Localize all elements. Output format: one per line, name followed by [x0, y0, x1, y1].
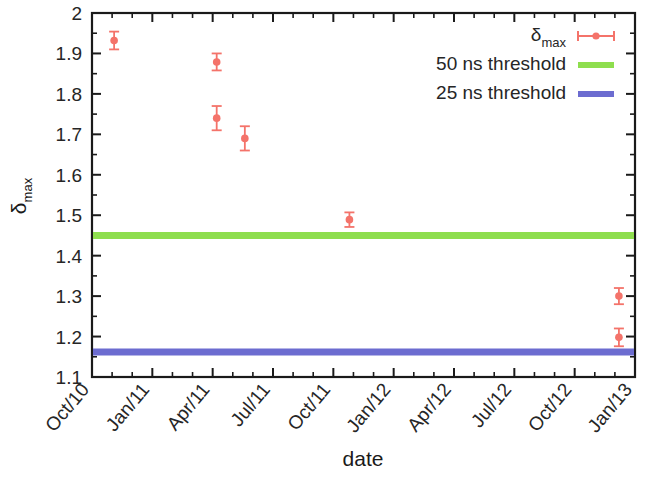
data-point [212, 106, 222, 130]
x-tick-label: Apr/11 [163, 379, 214, 434]
chart-figure: 21.91.81.71.61.51.41.31.21.1 Oct/10Jan/1… [0, 0, 663, 478]
y-tick-label: 1.4 [56, 246, 83, 267]
x-tick-label: Apr/12 [403, 379, 455, 435]
data-point [212, 53, 222, 70]
y-axis-title-subscript: max [20, 177, 35, 202]
y-tick-label: 1.3 [56, 286, 82, 307]
legend-marker-deltamax [578, 31, 614, 41]
x-tick-label-group: Apr/11 [163, 379, 214, 434]
x-tick-label: Jan/13 [583, 379, 636, 436]
x-tick-label: Jan/12 [342, 379, 395, 436]
x-tick-label-group: Jul/12 [467, 379, 516, 431]
y-axis-title: δmax [7, 177, 35, 214]
data-point [614, 328, 624, 346]
y-tick-label: 1.5 [56, 205, 82, 226]
y-tick-label: 1.8 [56, 84, 82, 105]
x-tick-label: Jul/12 [467, 379, 516, 431]
x-tick-label-group: Jul/11 [226, 379, 274, 430]
legend-label-deltamax: δmax [531, 24, 567, 50]
x-tick-label-group: Apr/12 [403, 379, 455, 435]
data-series-deltamax [109, 32, 624, 347]
threshold-lines [93, 235, 634, 351]
data-point [344, 212, 354, 227]
legend-label-50ns: 50 ns threshold [436, 53, 566, 74]
x-tick-label-group: Oct/11 [283, 379, 334, 434]
y-tick-label: 1.9 [56, 43, 82, 64]
x-tick-label-group: Jan/12 [342, 379, 395, 436]
x-tick-label: Oct/12 [524, 379, 576, 435]
data-point [614, 288, 624, 304]
y-axis-tick-labels: 21.91.81.71.61.51.41.31.21.1 [56, 3, 83, 388]
x-axis-tick-labels: Oct/10Jan/11Apr/11Jul/11Oct/11Jan/12Apr/… [41, 379, 636, 436]
data-point [240, 126, 250, 150]
legend-deltamax-base: δ [531, 24, 542, 45]
x-axis-title: date [343, 447, 384, 470]
x-tick-label: Jan/11 [102, 379, 154, 435]
x-tick-label-group: Jan/13 [583, 379, 636, 436]
y-tick-label: 1.7 [56, 124, 82, 145]
chart-legend: δmax 50 ns threshold 25 ns threshold [436, 24, 614, 103]
x-tick-label-group: Jan/11 [102, 379, 154, 435]
y-axis-title-base: δ [7, 202, 30, 214]
y-axis-title-text: δmax [7, 177, 35, 214]
data-point [109, 32, 119, 50]
legend-label-25ns: 25 ns threshold [436, 82, 566, 103]
x-tick-label: Oct/11 [283, 379, 334, 434]
scatter-plot: 21.91.81.71.61.51.41.31.21.1 Oct/10Jan/1… [0, 0, 663, 478]
legend-deltamax-subscript: max [541, 35, 566, 50]
x-tick-label-group: Oct/12 [524, 379, 576, 435]
y-tick-label: 2 [71, 3, 82, 24]
y-tick-label: 1.2 [56, 327, 82, 348]
x-tick-label: Jul/11 [226, 379, 274, 430]
y-tick-label: 1.6 [56, 165, 82, 186]
